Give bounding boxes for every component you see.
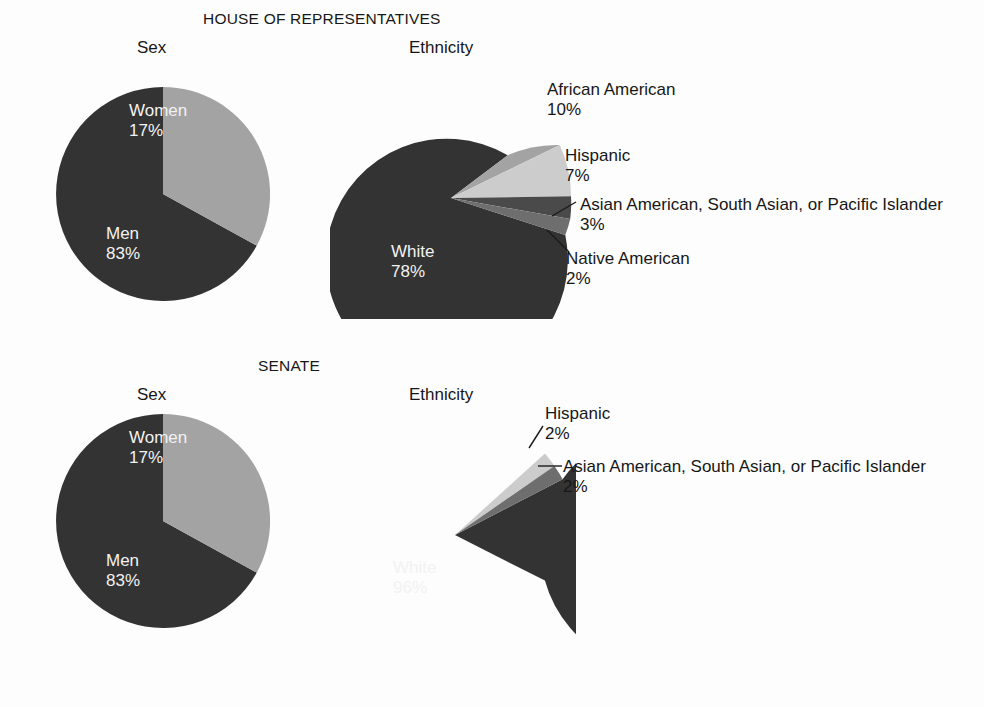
slice-label-house-eth-asian-american: Asian American, South Asian, or Pacific … <box>580 195 943 235</box>
slice-label-house-eth-white: White 78% <box>391 242 434 282</box>
slice-label-name: Hispanic <box>545 404 610 423</box>
slice-label-house-eth-hispanic: Hispanic 7% <box>565 146 630 186</box>
leader-line-house-native-american <box>545 228 585 262</box>
pie-svg-house-ethnicity <box>330 77 572 319</box>
slice-label-name: White <box>391 242 434 261</box>
chart-caption-house-sex: Sex <box>137 38 166 58</box>
slice-label-pct: 96% <box>393 578 436 598</box>
slice-label-senate-eth-asian-american: Asian American, South Asian, or Pacific … <box>563 457 926 497</box>
chart-caption-house-ethnicity: Ethnicity <box>409 38 473 58</box>
slice-label-pct: 17% <box>129 448 187 468</box>
slice-label-name: Women <box>129 101 187 120</box>
slice-label-name: Women <box>129 428 187 447</box>
slice-label-pct: 2% <box>563 477 926 497</box>
slice-label-pct: 7% <box>565 166 630 186</box>
slice-label-senate-sex-women: Women 17% <box>129 428 187 468</box>
slice-label-house-eth-african-american: African American 10% <box>547 80 676 120</box>
slice-label-house-sex-women: Women 17% <box>129 101 187 141</box>
section-title-senate: SENATE <box>258 357 320 375</box>
slice-label-senate-eth-white: White 96% <box>393 558 436 598</box>
slice-label-pct: 83% <box>106 571 140 591</box>
figure-canvas: HOUSE OF REPRESENTATIVES Sex Ethnicity W… <box>0 0 984 707</box>
slice-label-pct: 83% <box>106 244 140 264</box>
slice-label-name: Men <box>106 551 139 570</box>
slice-label-pct: 3% <box>580 215 943 235</box>
slice-label-pct: 10% <box>547 100 676 120</box>
slice-label-pct: 2% <box>566 269 690 289</box>
slice-label-name: Asian American, South Asian, or Pacific … <box>580 195 943 214</box>
chart-caption-senate-sex: Sex <box>137 385 166 405</box>
slice-label-senate-eth-hispanic: Hispanic 2% <box>545 404 610 444</box>
slice-label-senate-sex-men: Men 83% <box>106 551 140 591</box>
slice-label-name: Asian American, South Asian, or Pacific … <box>563 457 926 476</box>
slice-label-pct: 2% <box>545 424 610 444</box>
slice-label-name: White <box>393 558 436 577</box>
slice-label-name: Hispanic <box>565 146 630 165</box>
slice-label-name: Men <box>106 224 139 243</box>
leader-line-senate-asian-american <box>536 458 570 474</box>
slice-label-name: African American <box>547 80 676 99</box>
leader-line-senate-hispanic <box>527 424 553 452</box>
slice-label-pct: 78% <box>391 262 434 282</box>
leader-line-house-asian-american <box>550 190 590 220</box>
section-title-house: HOUSE OF REPRESENTATIVES <box>203 10 441 28</box>
slice-label-house-sex-men: Men 83% <box>106 224 140 264</box>
pie-chart-house-ethnicity <box>330 77 572 319</box>
slice-label-pct: 17% <box>129 121 187 141</box>
chart-caption-senate-ethnicity: Ethnicity <box>409 385 473 405</box>
